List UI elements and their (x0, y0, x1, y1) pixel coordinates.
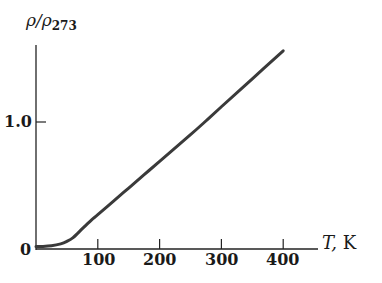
x-tick-marks (98, 239, 283, 249)
y-tick-label-0: 0 (20, 240, 31, 259)
x-tick-label-100: 100 (82, 250, 115, 269)
data-line (36, 51, 283, 247)
x-tick-label-400: 400 (266, 250, 299, 269)
x-tick-label-200: 200 (143, 250, 176, 269)
y-tick-label-1: 1.0 (4, 112, 32, 131)
y-axis-label: ρ/ρ273 (26, 10, 77, 33)
x-tick-label-300: 300 (205, 250, 238, 269)
x-axis-label: T, K (322, 232, 356, 253)
